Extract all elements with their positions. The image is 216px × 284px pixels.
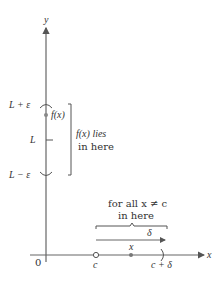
- c-label: c: [93, 259, 98, 270]
- brace-text-line2: in here: [118, 210, 154, 221]
- L-minus-epsilon-label: L − ε: [8, 169, 30, 180]
- x-point: [129, 253, 133, 257]
- bracket-text-line1: f(x) lies: [76, 128, 106, 140]
- x-point-label: x: [128, 241, 134, 252]
- delta-brace: [96, 223, 167, 229]
- bracket-text-line2: in here: [78, 141, 114, 152]
- L-plus-epsilon-label: L + ε: [8, 99, 30, 110]
- origin-label: 0: [35, 257, 41, 268]
- delta-label: δ: [147, 227, 152, 238]
- brace-text-line1: for all x ≠ c: [108, 198, 168, 209]
- fx-point: [44, 113, 48, 117]
- epsilon-delta-diagram: y x 0 L + ε L L − ε f(x) f(x) lies in he…: [0, 0, 216, 284]
- fx-bracket: [68, 104, 71, 175]
- c-plus-delta-label: c + δ: [151, 259, 172, 270]
- L-label: L: [29, 134, 36, 145]
- c-open-point: [93, 252, 98, 257]
- x-axis-label: x: [206, 249, 212, 260]
- fx-label: f(x): [51, 109, 66, 121]
- y-axis-label: y: [43, 14, 49, 25]
